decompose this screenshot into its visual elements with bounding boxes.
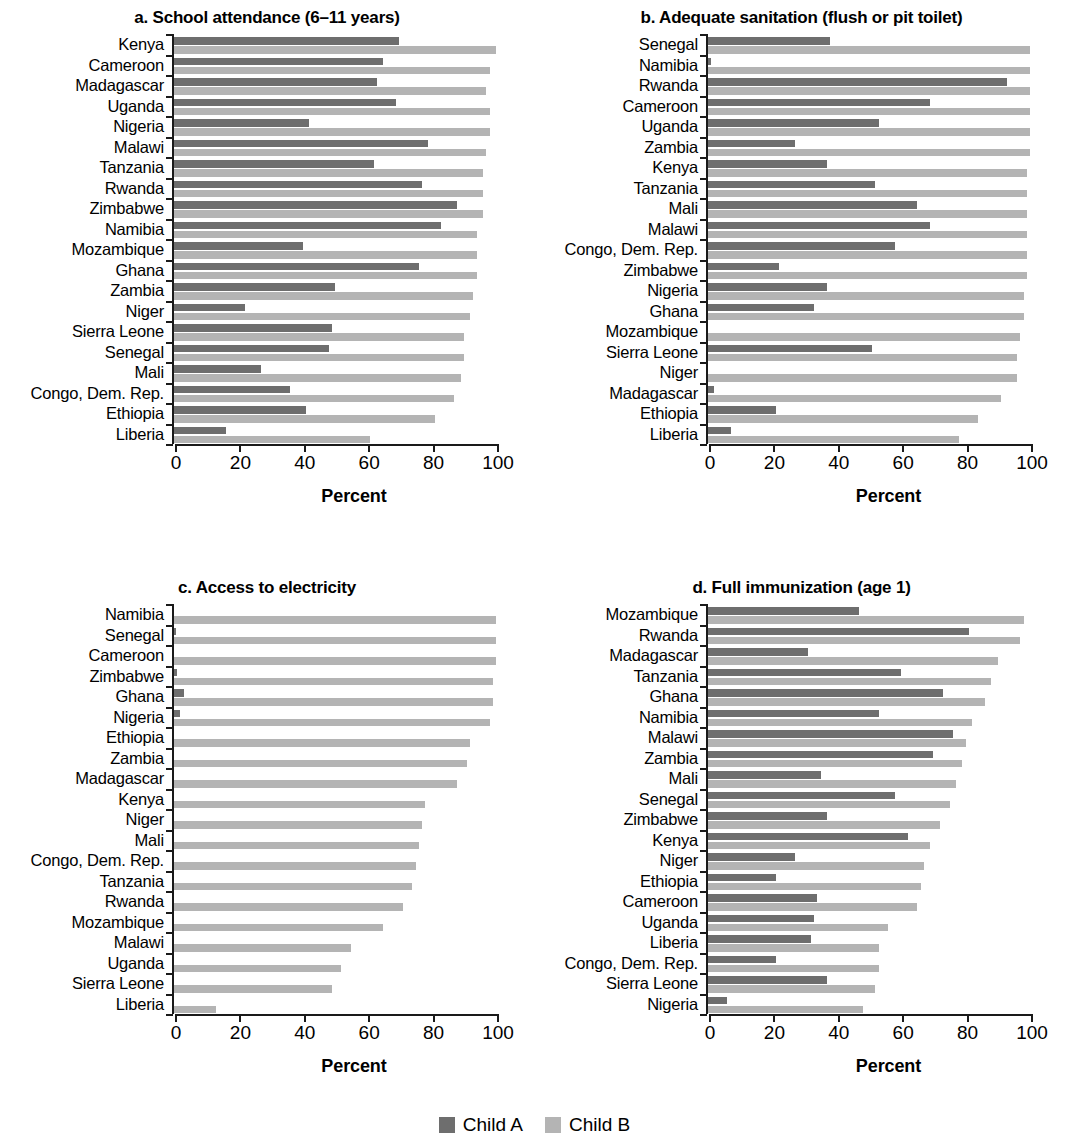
- panel-d-category-label: Mali: [534, 768, 706, 789]
- panel-d-bar-child-a: [708, 935, 811, 943]
- panel-d-x-tick-label: 40: [828, 1022, 849, 1044]
- panel-d-x-tick-labels: 020406080100: [710, 1016, 1032, 1044]
- panel-d-bar-child-b: [708, 821, 940, 829]
- panel-d-category-label: Tanzania: [534, 666, 706, 687]
- panel-b-bar-child-a: [708, 99, 930, 107]
- panel-b-bar-child-a: [708, 283, 827, 291]
- panel-a-bar-child-b: [174, 333, 464, 341]
- panel-b-bar-child-b: [708, 272, 1027, 280]
- panel-c-bar-group: [174, 625, 534, 646]
- panel-b-y-tick: [700, 157, 707, 159]
- panel-a-bar-child-b: [174, 67, 490, 75]
- panel-a-bar-child-a: [174, 222, 441, 230]
- panel-d-category-label: Liberia: [534, 932, 706, 953]
- panel-b-bar-group: [708, 424, 1069, 445]
- panel-d-bar-group: [708, 830, 1069, 851]
- panel-b-bar-child-a: [708, 222, 930, 230]
- panel-d-plot-area: [706, 604, 1069, 1014]
- panel-d-bar-child-a: [708, 894, 817, 902]
- panel-b-plot-area: [706, 34, 1069, 444]
- panel-b-x-tick-label: 20: [764, 452, 785, 474]
- panel-a-bar-group: [174, 424, 534, 445]
- panel-d-bar-child-b: [708, 678, 991, 686]
- panel-d-y-tick: [700, 809, 707, 811]
- panel-d-category-label: Mozambique: [534, 604, 706, 625]
- panel-b-y-tick: [700, 280, 707, 282]
- panel-c-category-label: Mali: [0, 830, 172, 851]
- panel-d-y-tick: [700, 604, 707, 606]
- panel-c-category-label: Congo, Dem. Rep.: [0, 850, 172, 871]
- panel-d-bar-child-a: [708, 628, 969, 636]
- panel-b-y-tick: [700, 403, 707, 405]
- panel-a-bar-child-a: [174, 140, 428, 148]
- panel-a-bar-child-b: [174, 415, 435, 423]
- panel-b-bar-child-b: [708, 210, 1027, 218]
- panel-a-category-label: Sierra Leone: [0, 321, 172, 342]
- panel-a-bar-group: [174, 55, 534, 76]
- panel-d-bar-child-b: [708, 719, 972, 727]
- panel-b-y-tick: [700, 383, 707, 385]
- panel-b-y-tick: [700, 55, 707, 57]
- panel-a-bar-child-a: [174, 283, 335, 291]
- panel-b-bar-child-a: [708, 427, 731, 435]
- panel-d-y-tick: [700, 994, 707, 996]
- panel-d-category-label: Sierra Leone: [534, 973, 706, 994]
- panel-a-bar-group: [174, 321, 534, 342]
- panel-b-bar-child-a: [708, 119, 879, 127]
- panel-d-category-label: Namibia: [534, 707, 706, 728]
- panel-d-bar-group: [708, 871, 1069, 892]
- panel-a-y-tick: [166, 444, 173, 446]
- panel-c-x-tick-label: 40: [294, 1022, 315, 1044]
- panel-b-bar-group: [708, 321, 1069, 342]
- panel-c-y-tick: [166, 748, 173, 750]
- panel-a-bar-child-a: [174, 304, 245, 312]
- panel-b-bar-child-a: [708, 201, 917, 209]
- panel-d-plot: MozambiqueRwandaMadagascarTanzaniaGhanaN…: [534, 604, 1069, 1014]
- panel-b-bar-group: [708, 96, 1069, 117]
- legend-label-child-a: Child A: [463, 1114, 523, 1136]
- panel-a-bar-child-b: [174, 108, 490, 116]
- panel-a-bar-child-b: [174, 169, 483, 177]
- panel-c-y-tick: [166, 1014, 173, 1016]
- panel-d-category-label: Congo, Dem. Rep.: [534, 953, 706, 974]
- panel-a-xaxis-holder: 020406080100 Percent: [174, 444, 534, 507]
- panel-a-y-tick: [166, 362, 173, 364]
- panel-a-y-tick: [166, 75, 173, 77]
- panel-c-bar-group: [174, 809, 534, 830]
- panel-c-bar-child-b: [174, 657, 496, 665]
- panel-b-x-tick-label: 80: [957, 452, 978, 474]
- panel-b-category-label: Cameroon: [534, 96, 706, 117]
- panel-a-bar-child-b: [174, 272, 477, 280]
- panel-d-y-tick: [700, 666, 707, 668]
- panel-c-bar-group: [174, 666, 534, 687]
- panel-c-category-label: Namibia: [0, 604, 172, 625]
- panel-b-bar-child-a: [708, 37, 830, 45]
- panel-c-y-tick: [166, 604, 173, 606]
- panel-a-y-tick: [166, 96, 173, 98]
- panel-c-bar-child-b: [174, 616, 496, 624]
- panel-a-bar-child-a: [174, 345, 329, 353]
- panel-a-bar-child-b: [174, 231, 477, 239]
- panel-c-y-tick: [166, 707, 173, 709]
- panel-a-category-label: Congo, Dem. Rep.: [0, 383, 172, 404]
- panel-d-bar-child-a: [708, 833, 908, 841]
- panel-a-category-label: Tanzania: [0, 157, 172, 178]
- panel-b-bar-group: [708, 301, 1069, 322]
- panel-d-category-label: Senegal: [534, 789, 706, 810]
- panel-a-bar-child-b: [174, 436, 370, 444]
- panel-d-bar-group: [708, 686, 1069, 707]
- panel-c-category-label: Senegal: [0, 625, 172, 646]
- legend-item-child-b: Child B: [545, 1114, 630, 1136]
- panel-c-bar-group: [174, 932, 534, 953]
- panel-a-x-tick-label: 20: [230, 452, 251, 474]
- panel-c-category-label: Rwanda: [0, 891, 172, 912]
- panel-b-bar-group: [708, 157, 1069, 178]
- panel-d-bar-child-b: [708, 739, 966, 747]
- panel-b-y-tick: [700, 178, 707, 180]
- panel-d-bar-group: [708, 645, 1069, 666]
- panel-c-category-label: Ethiopia: [0, 727, 172, 748]
- panel-c-category-label: Liberia: [0, 994, 172, 1015]
- panel-c-y-tick: [166, 666, 173, 668]
- chart-legend: Child A Child B: [0, 1114, 1069, 1136]
- panel-c-bar-group: [174, 994, 534, 1015]
